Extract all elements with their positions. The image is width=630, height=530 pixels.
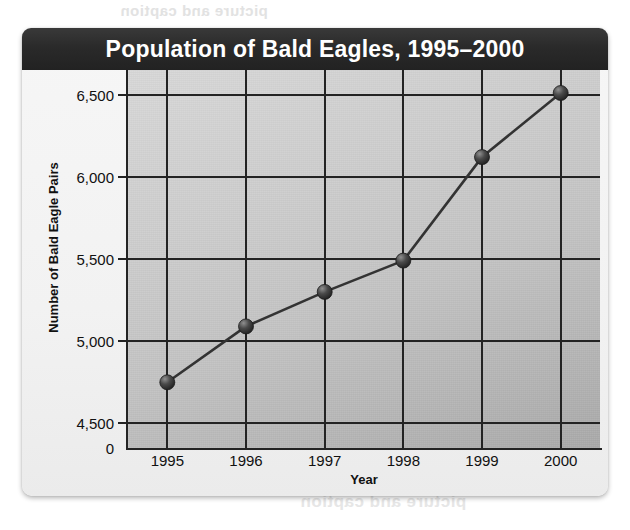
chart-title-bar: Population of Bald Eagles, 1995–2000 xyxy=(22,28,608,70)
data-point-marker xyxy=(396,253,411,268)
chart-title: Population of Bald Eagles, 1995–2000 xyxy=(106,36,525,63)
y-tick-label: 0 xyxy=(38,440,114,457)
data-point-marker xyxy=(317,284,332,299)
x-tick-label: 2000 xyxy=(526,452,596,469)
chart-card: Population of Bald Eagles, 1995–2000 Num… xyxy=(22,28,608,496)
y-tick-label: 5,000 xyxy=(38,333,114,350)
x-tick-label: 1995 xyxy=(132,452,202,469)
y-tick-mark xyxy=(118,422,128,424)
x-tick-label: 1998 xyxy=(368,452,438,469)
y-tick-mark xyxy=(118,176,128,178)
y-tick-mark xyxy=(118,258,128,260)
data-point-marker xyxy=(553,86,568,101)
data-series-layer xyxy=(128,70,600,448)
y-tick-label: 4,500 xyxy=(38,415,114,432)
y-tick-mark xyxy=(118,94,128,96)
y-tick-label: 6,000 xyxy=(38,168,114,185)
x-tick-label: 1996 xyxy=(211,452,281,469)
data-point-marker xyxy=(160,375,175,390)
data-point-marker xyxy=(475,150,490,165)
y-tick-label: 5,500 xyxy=(38,251,114,268)
y-axis-line xyxy=(126,70,128,450)
y-tick-mark xyxy=(118,340,128,342)
x-tick-label: 1999 xyxy=(447,452,517,469)
background-bleed-text-top: picture and caption xyxy=(120,2,268,19)
y-tick-label: 6,500 xyxy=(38,86,114,103)
x-tick-label: 1997 xyxy=(290,452,360,469)
figure-page: picture and caption picture and caption … xyxy=(0,0,630,530)
series-line xyxy=(167,93,560,382)
plot-area xyxy=(128,70,600,448)
x-axis-line xyxy=(126,448,602,450)
x-axis-title: Year xyxy=(128,472,600,487)
data-point-marker xyxy=(239,319,254,334)
